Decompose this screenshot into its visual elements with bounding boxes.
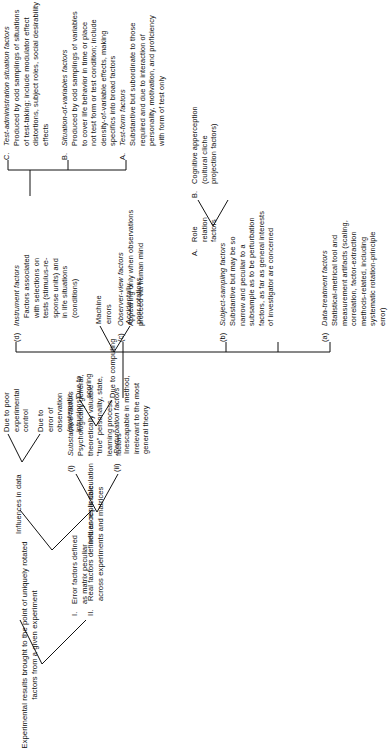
subject-sampling-factors-title: Subject-sampling factors: [218, 176, 228, 326]
data-treatment-factors-marker: (a): [320, 333, 330, 342]
test-administration-factors-body: Produced by odd samplings of situations …: [12, 0, 50, 146]
test-administration-factors-marker: C.: [2, 152, 12, 160]
branch-II-number: II.: [86, 610, 96, 616]
data-treatment-factors-body: Statistical-metrical tool and measuremen…: [330, 166, 388, 326]
cognitive-apperception-marker: B.: [190, 191, 200, 198]
substantive-factors-marker: (i): [66, 465, 76, 472]
test-administration-factors-title: Test-administration situation factors: [2, 0, 12, 146]
branch-I-number: I.: [70, 612, 80, 616]
substantive-factors-title: Substantive factors: [66, 336, 76, 456]
subject-sampling-factors-marker: (b): [218, 333, 228, 342]
perturbation-factors-marker: (ii): [112, 463, 122, 472]
observer-view-factors-title: Observer-view factors: [116, 176, 126, 326]
instrument-factors-title: Instrument factors: [12, 206, 22, 326]
role-relation-factors-label: Role relation factors: [190, 192, 219, 242]
test-form-factors-marker: A.: [118, 153, 128, 160]
cognitive-apperception-label: Cognitive apperception (cultural cliche …: [190, 88, 219, 184]
observer-view-factors-marker: (c): [116, 333, 126, 342]
situation-of-variables-factors-title: Situation-of-variables factors: [60, 0, 70, 146]
situation-of-variables-factors-marker: B.: [60, 153, 70, 160]
role-relation-factors-marker: A.: [190, 249, 200, 256]
test-form-factors-title: Test-form factors: [118, 0, 128, 146]
instrument-factors-marker: (d): [12, 333, 22, 342]
data-treatment-factors-title: Data-treatment factors: [320, 176, 330, 326]
root-label: Experimental results brought to the poin…: [20, 540, 40, 750]
subject-sampling-factors-body: Substantive but may be so narrow and pec…: [228, 158, 276, 326]
situation-of-variables-factors-body: Produced by odd samplings of variables t…: [70, 0, 118, 146]
test-form-factors-body: Substantive but subordinate to those req…: [128, 0, 166, 146]
due-to-poor-control-label: Due to poor experimental control: [2, 370, 31, 432]
perturbation-factors-title: Perturbation factors: [112, 334, 122, 454]
influences-in-data-label: Influences in data: [14, 474, 24, 534]
machine-errors-label: Machine errors: [94, 272, 113, 324]
instrument-factors-body: Factors associated with selections on te…: [22, 226, 80, 318]
observer-view-factors-body: Appearing only when observations proceed…: [126, 166, 145, 326]
perturbation-factors-body: Inescapable in method, irrelevant to the…: [122, 338, 151, 454]
